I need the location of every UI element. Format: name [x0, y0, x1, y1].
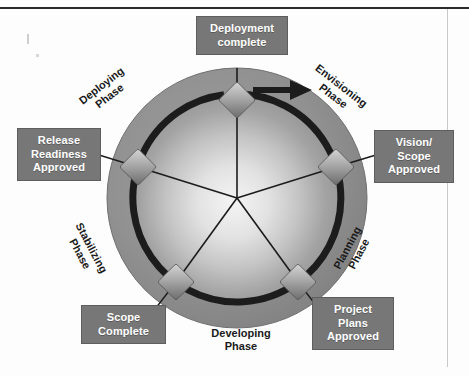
callout-release-readiness-approved[interactable]: Release Readiness Approved: [17, 128, 101, 181]
callout-deployment-complete[interactable]: Deployment complete: [196, 16, 288, 55]
callout-line: Approved: [320, 330, 386, 344]
phase-label-developing: Developing Phase: [193, 327, 289, 353]
callout-line: Deployment: [204, 22, 280, 36]
callout-project-plans-approved[interactable]: Project Plans Approved: [312, 297, 394, 350]
process-wheel-graphic: [0, 0, 469, 376]
callout-scope-complete[interactable]: Scope Complete: [81, 305, 166, 344]
callout-vision-scope-approved[interactable]: Vision/ Scope Approved: [374, 130, 454, 183]
callout-line: complete: [204, 36, 280, 50]
callout-line: Scope: [89, 311, 158, 325]
diagram-page: Deployment complete Vision/ Scope Approv…: [0, 0, 469, 376]
callout-line: Release: [25, 134, 93, 148]
callout-line: Project: [320, 303, 386, 317]
callout-line: Approved: [25, 161, 93, 175]
callout-line: Readiness: [25, 148, 93, 162]
phase-label-line: Developing: [193, 327, 289, 340]
callout-line: Plans: [320, 317, 386, 331]
callout-line: Vision/: [382, 136, 446, 150]
callout-line: Scope: [382, 150, 446, 164]
callout-line: Complete: [89, 325, 158, 339]
phase-label-line: Phase: [193, 340, 289, 353]
process-wheel: [0, 0, 469, 376]
callout-line: Approved: [382, 163, 446, 177]
